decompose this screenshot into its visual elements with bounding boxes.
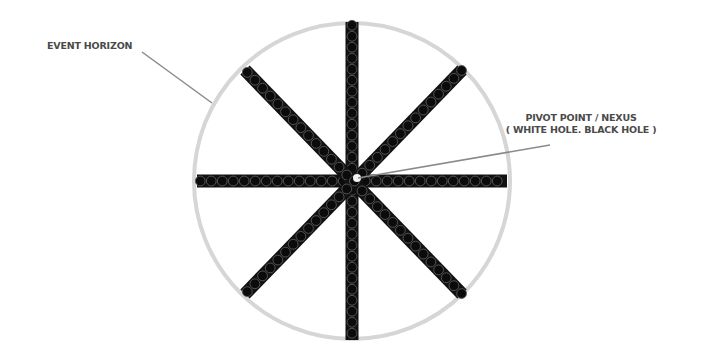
pivot-point-label: PIVOT POINT / NEXUS ( WHITE HOLE. BLACK …	[486, 112, 676, 136]
event-horizon-label: EVENT HORIZON	[47, 40, 132, 52]
black-hole-wheel-diagram	[0, 0, 719, 361]
event-horizon-leader-line	[142, 52, 212, 103]
pivot-label-line2: ( WHITE HOLE. BLACK HOLE )	[486, 124, 676, 136]
pivot-label-line1: PIVOT POINT / NEXUS	[486, 112, 676, 124]
